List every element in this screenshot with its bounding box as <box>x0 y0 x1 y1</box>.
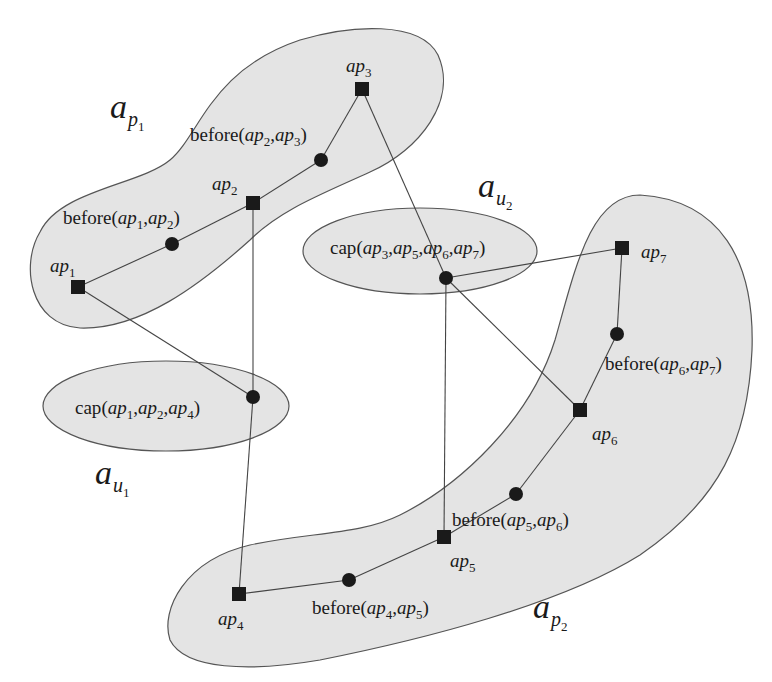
label-a-u2: au2 <box>478 167 513 213</box>
node-ap5-square <box>437 530 451 544</box>
node-before-ap2-ap3-circle <box>314 153 328 167</box>
label-a-p1: ap1 <box>110 88 145 134</box>
node-ap3-square <box>355 82 369 96</box>
node-ap1-square <box>71 280 85 294</box>
node-ap6-square <box>573 403 587 417</box>
node-cap-124-circle <box>246 390 260 404</box>
node-before-ap4-ap5-circle <box>342 573 356 587</box>
label-a-u1: au1 <box>95 454 130 500</box>
node-before-ap1-ap2-circle <box>165 237 179 251</box>
node-ap7-square <box>615 241 629 255</box>
hypergraph-diagram: ap1 au1 au2 ap2 ap1 ap2 ap3 ap4 ap5 ap6 … <box>0 0 772 682</box>
node-ap2-square <box>246 196 260 210</box>
node-before-ap5-ap6-circle <box>509 487 523 501</box>
node-before-ap6-ap7-circle <box>610 327 624 341</box>
node-ap4-square <box>232 587 246 601</box>
node-cap-3567-circle <box>439 271 453 285</box>
